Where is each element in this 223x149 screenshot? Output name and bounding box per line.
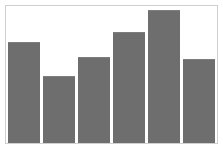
bar-4-top-edge (113, 32, 145, 33)
bar-6-top-edge (183, 59, 215, 60)
bar-1 (8, 42, 40, 143)
bar-5-top-edge (148, 10, 180, 11)
plot-area (6, 6, 217, 143)
bar-chart-figure (0, 0, 223, 149)
bar-3-top-edge (78, 57, 110, 58)
bar-2-top-edge (43, 76, 75, 77)
bar-5 (148, 10, 180, 143)
bar-6 (183, 59, 215, 143)
bar-4 (113, 32, 145, 143)
bar-3 (78, 57, 110, 143)
plot-frame (5, 5, 218, 144)
bar-2 (43, 76, 75, 143)
bar-1-top-edge (8, 42, 40, 43)
